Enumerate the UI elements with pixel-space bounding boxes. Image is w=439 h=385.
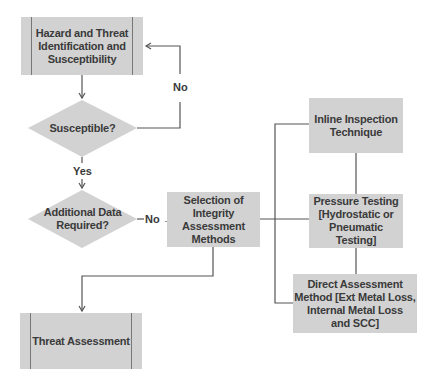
selection-methods-label: Selection of Integrity Assessment Method…: [182, 194, 245, 246]
decision-additional-data: Additional Data Required?: [28, 190, 137, 248]
threat-assessment-label: Threat Assessment: [32, 335, 130, 348]
direct-assessment-box: Direct Assessment Method [Ext Metal Loss…: [293, 274, 417, 333]
inline-inspection-label: Inline Inspection Technique: [314, 113, 397, 139]
selection-methods-box: Selection of Integrity Assessment Method…: [167, 192, 260, 247]
hazard-identification-label: Hazard and Threat Identification and Sus…: [36, 27, 129, 66]
direct-assessment-label: Direct Assessment Method [Ext Metal Loss…: [294, 278, 415, 330]
predefined-process-bar-left: [30, 313, 31, 369]
inline-inspection-box: Inline Inspection Technique: [309, 98, 403, 153]
predefined-process-bar-right: [132, 17, 133, 75]
predefined-process-bar-right: [131, 313, 132, 369]
edge-label-no-feedback: No: [173, 81, 188, 94]
edge-label-yes: Yes: [73, 165, 92, 178]
decision-susceptible: Susceptible?: [28, 100, 137, 157]
pressure-testing-label: Pressure Testing [Hydrostatic or Pneumat…: [309, 195, 403, 247]
hazard-identification-box: Hazard and Threat Identification and Sus…: [21, 17, 143, 75]
predefined-process-bar-left: [31, 17, 32, 75]
decision-additional-data-label: Additional Data Required?: [44, 206, 122, 232]
pressure-testing-box: Pressure Testing [Hydrostatic or Pneumat…: [309, 194, 403, 248]
threat-assessment-box: Threat Assessment: [20, 313, 142, 369]
decision-susceptible-label: Susceptible?: [49, 122, 115, 135]
